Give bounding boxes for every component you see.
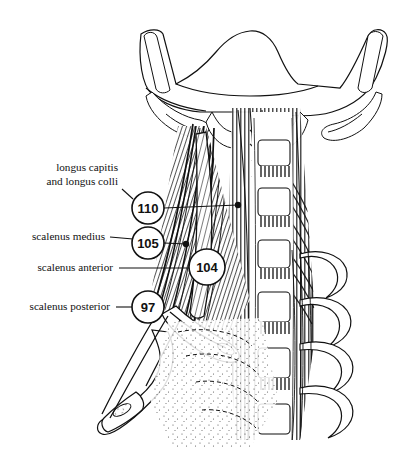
label-line-2: and longus colli [47, 175, 118, 187]
callout-number-104: 104 [196, 260, 218, 275]
callout-number-97: 97 [141, 300, 155, 315]
endpoint-dot-110 [235, 202, 241, 208]
anatomical-figure: 110 105 104 97 longus capitis and longus… [0, 0, 407, 454]
endpoint-dot-105 [183, 241, 189, 247]
label-scalenus-medius: scalenus medius [32, 230, 105, 242]
callout-number-105: 105 [137, 236, 159, 251]
callout-104[interactable]: 104 [189, 249, 225, 285]
callout-105[interactable]: 105 [132, 227, 164, 259]
callout-97[interactable]: 97 [132, 291, 164, 323]
label-scalenus-anterior: scalenus anterior [38, 261, 114, 273]
callout-number-110: 110 [138, 201, 159, 216]
callout-110[interactable]: 110 [132, 192, 164, 224]
label-line-1: longus capitis [56, 161, 118, 173]
label-scalenus-posterior: scalenus posterior [30, 300, 111, 312]
